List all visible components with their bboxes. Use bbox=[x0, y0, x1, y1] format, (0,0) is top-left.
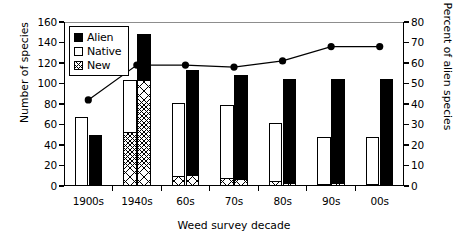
chart-figure: 020406080100120140160 Number of species … bbox=[0, 0, 453, 241]
bar-new-alien-1940s bbox=[137, 80, 151, 186]
bar-native-90s bbox=[317, 137, 331, 186]
x-axis-tick-label: 90s bbox=[307, 196, 356, 207]
bar-new-alien-80s bbox=[283, 183, 297, 186]
bar-native-70s bbox=[220, 105, 234, 186]
x-axis-tick-label: 80s bbox=[258, 196, 307, 207]
y-axis-left-tick-label: 120 bbox=[38, 58, 57, 69]
x-axis-tick-label: 00s bbox=[355, 196, 404, 207]
x-axis-tick bbox=[209, 186, 210, 191]
black-square-icon bbox=[74, 33, 83, 42]
y-axis-left-tick-label: 40 bbox=[44, 140, 57, 151]
y-axis-left-tick bbox=[59, 124, 64, 125]
y-axis-right-tick-label: 50 bbox=[411, 78, 424, 89]
y-axis-left-tick-label: 160 bbox=[38, 17, 57, 28]
x-axis-tick-label: 60s bbox=[161, 196, 210, 207]
bar-new-native-80s bbox=[269, 181, 283, 186]
legend-item-alien: Alien bbox=[74, 30, 121, 44]
y-axis-left-tick bbox=[59, 165, 64, 166]
y-axis-right-tick-label: 70 bbox=[411, 37, 424, 48]
bar-new-native-1940s bbox=[123, 132, 137, 186]
y-axis-right-tick-label: 0 bbox=[411, 181, 417, 192]
y-axis-right-title: Percent of alien species bbox=[441, 0, 453, 137]
y-axis-right-tick-label: 10 bbox=[411, 160, 424, 171]
bar-alien-00s bbox=[380, 79, 394, 186]
y-axis-right-tick bbox=[404, 42, 409, 43]
y-axis-right-tick-label: 30 bbox=[411, 119, 424, 130]
bar-alien-80s bbox=[283, 79, 297, 186]
y-axis-left-tick bbox=[59, 62, 64, 63]
y-axis-right-tick bbox=[404, 124, 409, 125]
hatched-square-icon bbox=[74, 61, 83, 70]
y-axis-left-tick bbox=[59, 103, 64, 104]
y-axis-right-tick bbox=[404, 103, 409, 104]
bar-native-1900s bbox=[75, 117, 89, 186]
bar-new-native-70s bbox=[220, 178, 234, 186]
x-axis-tick bbox=[306, 186, 307, 191]
bar-alien-90s bbox=[331, 79, 345, 186]
y-axis-left-tick bbox=[59, 185, 64, 186]
white-square-icon bbox=[74, 47, 83, 56]
y-axis-right-tick-label: 80 bbox=[411, 17, 424, 28]
bar-alien-1900s bbox=[89, 135, 103, 186]
bar-new-native-90s bbox=[317, 184, 331, 186]
legend-item-label: New bbox=[87, 60, 110, 71]
bar-alien-60s bbox=[186, 70, 200, 186]
bar-new-alien-00s bbox=[380, 184, 394, 186]
y-axis-right-tick bbox=[404, 144, 409, 145]
bar-new-alien-70s bbox=[234, 179, 248, 186]
y-axis-right-tick bbox=[404, 83, 409, 84]
bar-native-80s bbox=[269, 123, 283, 186]
x-axis-tick-label: 1900s bbox=[64, 196, 113, 207]
y-axis-right-tick bbox=[404, 21, 409, 22]
y-axis-left-tick-label: 20 bbox=[44, 160, 57, 171]
y-axis-left-tick bbox=[59, 144, 64, 145]
y-axis-left-tick bbox=[59, 42, 64, 43]
bar-new-native-00s bbox=[366, 184, 380, 186]
x-axis-tick bbox=[112, 186, 113, 191]
y-axis-left-tick-label: 60 bbox=[44, 119, 57, 130]
y-axis-left-tick-label: 0 bbox=[51, 181, 57, 192]
chart-legend: AlienNativeNew bbox=[69, 26, 129, 76]
x-axis-tick bbox=[258, 186, 259, 191]
bar-new-alien-90s bbox=[331, 183, 345, 186]
bar-alien-70s bbox=[234, 75, 248, 186]
y-axis-right-tick-label: 40 bbox=[411, 99, 424, 110]
x-axis-tick-label: 1940s bbox=[113, 196, 162, 207]
y-axis-right-tick bbox=[404, 62, 409, 63]
legend-item-label: Alien bbox=[87, 32, 113, 43]
bar-native-60s bbox=[172, 103, 186, 186]
y-axis-left-tick bbox=[59, 83, 64, 84]
y-axis-left-tick-label: 100 bbox=[38, 78, 57, 89]
x-axis-tick bbox=[355, 186, 356, 191]
bar-native-00s bbox=[366, 137, 380, 186]
x-axis-title: Weed survey decade bbox=[64, 219, 404, 232]
x-axis-tick bbox=[161, 186, 162, 191]
legend-item-native: Native bbox=[74, 44, 121, 58]
bar-new-alien-60s bbox=[186, 175, 200, 186]
y-axis-left-tick-label: 140 bbox=[38, 37, 57, 48]
x-axis-tick-label: 70s bbox=[210, 196, 259, 207]
y-axis-left-tick bbox=[59, 21, 64, 22]
y-axis-right-tick bbox=[404, 185, 409, 186]
y-axis-left-tick-label: 80 bbox=[44, 99, 57, 110]
legend-item-label: Native bbox=[87, 46, 121, 57]
legend-item-new: New bbox=[74, 58, 121, 72]
y-axis-left-title: Number of species bbox=[18, 13, 31, 133]
bar-new-native-60s bbox=[172, 176, 186, 186]
y-axis-right-tick-label: 60 bbox=[411, 58, 424, 69]
y-axis-right-tick-label: 20 bbox=[411, 140, 424, 151]
y-axis-right-tick bbox=[404, 165, 409, 166]
